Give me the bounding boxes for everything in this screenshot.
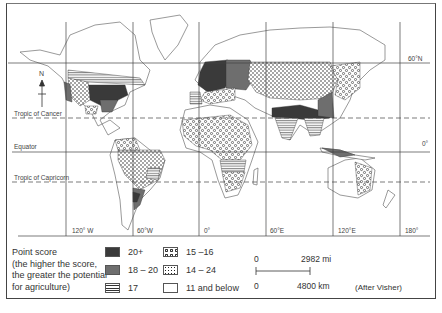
legend: Point score (the higher the score, the g… [8,244,432,296]
new-zealand [383,190,395,208]
swatch-dots [163,265,178,275]
region-australia-circles [355,162,372,195]
label-0: 0° [204,227,210,234]
legend-label: 15 –16 [186,247,214,257]
legend-title: Point score (the higher the score, the g… [12,247,107,293]
scale-top-zero: 0 [254,254,259,264]
legend-item-15-16: 15 –16 [163,247,214,257]
scale-bottom-value: 4800 km [297,281,330,291]
madagascar [253,168,258,185]
legend-label: 14 – 24 [186,265,216,275]
swatch-blank [163,283,178,293]
region-brazil-17 [146,168,160,180]
score-regions [64,60,372,210]
swatch-solid-medium [105,265,120,275]
legend-title-line1: Point score [12,247,107,259]
swatch-stripes [105,283,120,293]
swatch-solid-dark [105,247,120,257]
label-180: 180° [405,227,418,234]
label-120w: 120° W [72,227,93,234]
scale-bottom-zero: 0 [254,281,259,291]
label-60w: 60°W [137,227,153,234]
label-60n: 60°N [408,55,423,62]
region-southafrica-circles [222,172,245,192]
region-africa-17 [220,160,246,172]
legend-label: 11 and below [186,283,239,293]
label-equator: Equator [14,143,37,150]
legend-item-17: 17 [105,283,138,293]
region-africa-circles [182,115,252,160]
legend-item-14-24: 14 – 24 [163,265,216,275]
credit: (After Visher) [355,283,402,292]
greenland [150,15,188,60]
legend-item-11-below: 11 and below [163,283,239,293]
legend-title-line2: (the higher the score, [12,259,107,271]
legend-item-18-20: 18 – 20 [105,265,158,275]
scale-top-value: 2982 mi [301,254,331,264]
legend-title-line3: the greater the potential [12,270,107,282]
scale-bar [254,266,314,276]
compass-label: N [39,70,44,77]
label-equator-0: 0° [422,140,428,147]
label-120e: 120°E [338,227,356,234]
legend-label: 17 [128,283,138,293]
swatch-circles [163,247,178,257]
legend-title-line4: for agriculture) [12,282,107,294]
label-tropic-cancer: Tropic of Cancer [14,110,62,117]
label-tropic-capricorn: Tropic of Capricorn [14,174,69,181]
region-russia-dots [248,62,338,100]
region-seasia-17 [304,118,324,136]
north-arrow-icon [38,80,46,107]
legend-label: 20+ [128,247,143,257]
region-mexico-circles [85,106,98,114]
legend-label: 18 – 20 [128,265,158,275]
legend-item-20plus: 20+ [105,247,143,257]
region-iberia-17 [190,92,202,104]
label-60e: 60°E [270,227,284,234]
